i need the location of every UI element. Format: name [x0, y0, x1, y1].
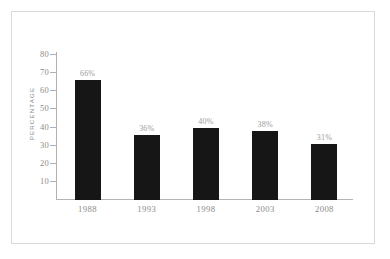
- bar[interactable]: [134, 135, 160, 200]
- x-axis-category-label: 1998: [176, 205, 236, 214]
- y-axis-tick-label: 40: [15, 123, 49, 132]
- y-axis-tick: [50, 127, 56, 128]
- y-axis-tick-labels: 1020304050607080: [0, 0, 49, 259]
- x-axis-category-label: 1988: [58, 205, 118, 214]
- bar-group[interactable]: 66%: [75, 53, 101, 200]
- bar-group[interactable]: 36%: [134, 53, 160, 200]
- y-axis-tick: [50, 145, 56, 146]
- bar[interactable]: [75, 80, 101, 200]
- y-axis-tick: [50, 108, 56, 109]
- x-axis-category-label: 2008: [294, 205, 354, 214]
- y-axis-tick-label: 10: [15, 177, 49, 186]
- y-axis-tick: [50, 54, 56, 55]
- y-axis-tick-label: 50: [15, 104, 49, 113]
- bar-value-label: 66%: [80, 70, 95, 78]
- bar-value-label: 40%: [198, 118, 213, 126]
- y-axis-tick-label: 60: [15, 86, 49, 95]
- bar-value-label: 31%: [317, 134, 332, 142]
- y-axis-tick-label: 80: [15, 50, 49, 59]
- y-axis-tick: [50, 72, 56, 73]
- x-axis-category-label: 1993: [117, 205, 177, 214]
- chart-page: PERCENTAGE 1020304050607080 66%36%40%38%…: [0, 0, 390, 259]
- y-axis-tick: [50, 90, 56, 91]
- bar-group[interactable]: 40%: [193, 53, 219, 200]
- y-axis-tick-label: 70: [15, 68, 49, 77]
- bar[interactable]: [193, 128, 219, 201]
- bar-group[interactable]: 31%: [311, 53, 337, 200]
- y-axis-tick-label: 30: [15, 141, 49, 150]
- x-axis-category-label: 2003: [235, 205, 295, 214]
- bar[interactable]: [252, 131, 278, 200]
- bar-group[interactable]: 38%: [252, 53, 278, 200]
- y-axis-tick: [50, 181, 56, 182]
- y-axis-tick-label: 20: [15, 159, 49, 168]
- plot-area: 66%36%40%38%31%: [56, 52, 352, 200]
- bar[interactable]: [311, 144, 337, 200]
- y-axis-tick: [50, 163, 56, 164]
- bar-value-label: 36%: [139, 125, 154, 133]
- bar-value-label: 38%: [258, 121, 273, 129]
